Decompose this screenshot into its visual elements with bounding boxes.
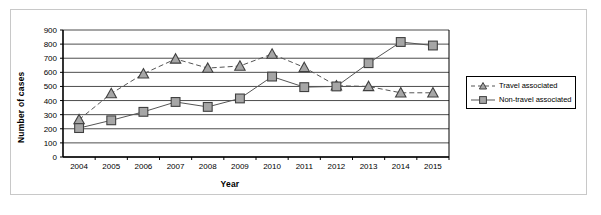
svg-text:2011: 2011 (296, 162, 314, 171)
svg-text:200: 200 (44, 125, 58, 134)
svg-text:300: 300 (44, 111, 58, 120)
legend-item-non-travel-associated: Non-travel associated (470, 93, 572, 107)
data-point-marker (236, 94, 245, 103)
svg-text:2006: 2006 (135, 162, 153, 171)
data-point-marker (332, 82, 341, 91)
svg-text:0: 0 (53, 153, 58, 162)
y-axis-title: Number of cases (14, 62, 28, 152)
dashed-line-triangle-marker-icon (470, 80, 496, 92)
data-point-marker (75, 124, 84, 133)
legend-item-travel-associated: Travel associated (470, 79, 572, 93)
svg-text:600: 600 (44, 68, 58, 77)
svg-text:400: 400 (44, 97, 58, 106)
svg-text:2012: 2012 (328, 162, 346, 171)
chart-figure: 0100200300400500600700800900200420052006… (0, 0, 601, 215)
data-point-marker (139, 107, 148, 116)
data-point-marker (429, 41, 438, 50)
data-point-marker (396, 38, 405, 47)
x-axis-title: Year (0, 179, 460, 189)
y-tick-labels: 0100200300400500600700800900 (44, 26, 63, 162)
svg-text:900: 900 (44, 26, 58, 35)
data-point-marker (203, 103, 212, 112)
svg-text:100: 100 (44, 139, 58, 148)
data-point-marker (300, 83, 309, 92)
data-point-marker (364, 59, 373, 68)
svg-text:700: 700 (44, 54, 58, 63)
plot-background (63, 30, 449, 157)
data-point-marker (107, 116, 116, 125)
svg-text:2015: 2015 (424, 162, 442, 171)
legend-label-travel-associated: Travel associated (496, 81, 558, 90)
legend-label-non-travel-associated: Non-travel associated (496, 95, 572, 104)
svg-text:2013: 2013 (360, 162, 378, 171)
data-point-marker (171, 98, 180, 107)
svg-text:2009: 2009 (231, 162, 249, 171)
data-point-marker (268, 72, 277, 81)
svg-text:2014: 2014 (392, 162, 410, 171)
svg-text:2010: 2010 (263, 162, 281, 171)
solid-line-square-marker-icon (470, 94, 496, 106)
svg-text:500: 500 (44, 82, 58, 91)
svg-text:2005: 2005 (102, 162, 120, 171)
svg-text:2007: 2007 (167, 162, 185, 171)
chart-legend: Travel associated Non-travel associated (466, 76, 576, 109)
svg-text:800: 800 (44, 40, 58, 49)
svg-text:2008: 2008 (199, 162, 217, 171)
x-tick-labels: 2004200520062007200820092010201120122013… (70, 157, 449, 171)
svg-text:2004: 2004 (70, 162, 88, 171)
